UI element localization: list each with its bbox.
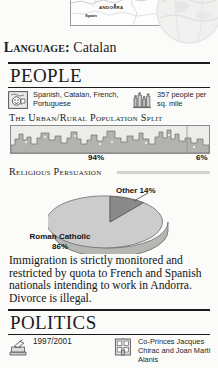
pie-label-roman-catholic: Roman Catholic 86% xyxy=(28,232,92,251)
population-density-text: 357 people per sq. mile xyxy=(157,90,212,108)
locator-map: France ANDORRA Spain xyxy=(70,0,160,26)
heads-of-state-text: Co-Princes Jacques Chirac and Joan Marti… xyxy=(138,337,212,365)
population-density-icon xyxy=(132,91,152,109)
globe-icon xyxy=(156,0,218,44)
map-label-andorra: ANDORRA xyxy=(99,5,124,10)
people-paragraph: Immigration is strictly monitored and re… xyxy=(9,255,209,305)
religious-persuasion-label: Religious Persuasion xyxy=(9,166,102,177)
languages-text: Spanish, Catalan, French, Portuguese xyxy=(33,90,132,108)
fact-languages: Spanish, Catalan, French, Portuguese xyxy=(8,90,132,109)
fact-heads-of-state: Co-Princes Jacques Chirac and Joan Marti… xyxy=(113,337,212,365)
ballot-box-icon xyxy=(8,338,28,356)
government-building-icon xyxy=(113,338,133,356)
pie-label-roman-catholic-text: Roman Catholic 86% xyxy=(30,232,91,251)
people-facts-row: Spanish, Catalan, French, Portuguese 357… xyxy=(8,90,212,109)
section-title-people: PEOPLE xyxy=(8,64,210,87)
section-people: PEOPLE xyxy=(8,62,210,88)
speech-face-icon xyxy=(8,91,28,109)
urban-rural-skyline-chart xyxy=(10,125,210,154)
fact-election-years: 1997/2001 xyxy=(8,337,113,365)
election-years-text: 1997/2001 xyxy=(33,337,72,347)
urban-rural-label: The Urban/Rural Population Split xyxy=(9,112,163,123)
map-label-spain: Spain xyxy=(85,13,97,18)
urban-percent: 94% xyxy=(88,153,104,162)
official-language-line: al Language: Catalan xyxy=(0,40,218,56)
fact-population-density: 357 people per sq. mile xyxy=(132,90,212,109)
almanac-page: France ANDORRA Spain al Language: Catala… xyxy=(0,0,218,368)
religion-divider-rule xyxy=(117,171,210,174)
politics-facts-row: 1997/2001 Co-Princes Jacques Chirac and … xyxy=(8,337,212,365)
section-rule-bottom xyxy=(8,87,210,88)
official-language-label: al Language: xyxy=(0,40,70,55)
section-politics: POLITICS xyxy=(8,309,210,335)
section-title-politics: POLITICS xyxy=(8,311,210,334)
official-language-value: Catalan xyxy=(73,40,116,55)
rural-percent: 6% xyxy=(196,153,208,162)
politics-rule-bottom xyxy=(8,334,210,335)
